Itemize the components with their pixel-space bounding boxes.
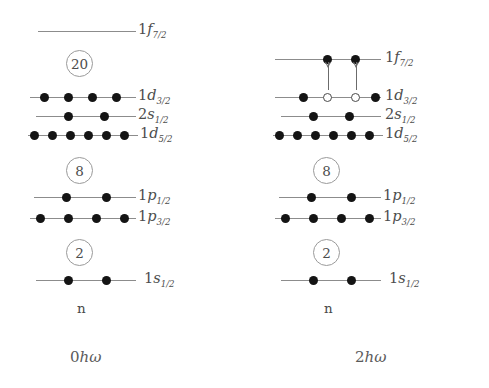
level-label-1p12: 1p1/2	[383, 187, 415, 206]
level-line	[281, 116, 381, 117]
particle-dot	[36, 214, 45, 223]
level-1f72-right: 1f7/2	[275, 50, 487, 70]
particle-dot	[309, 112, 318, 121]
level-1s12-left: 1s1/2	[36, 271, 241, 291]
particle-dot	[62, 193, 71, 202]
level-label-1f72: 1f7/2	[385, 49, 413, 68]
level-1f72-left: 1f7/2	[38, 22, 238, 42]
axis-label-n-left: n	[77, 300, 86, 316]
particle-dot	[365, 214, 374, 223]
particle-dot	[92, 214, 101, 223]
particle-dot	[64, 112, 73, 121]
level-line	[36, 116, 136, 117]
level-1p12-left: 1p1/2	[34, 188, 240, 208]
particle-dot	[100, 112, 109, 121]
level-label-1f72: 1f7/2	[138, 21, 166, 40]
particle-dot	[293, 131, 302, 140]
level-1p32-left: 1p3/2	[30, 209, 240, 229]
level-2s12-right: 2s1/2	[281, 107, 486, 127]
level-label-1p12: 1p1/2	[138, 187, 170, 206]
particle-dot	[347, 131, 356, 140]
caption-0hw: 0hω	[70, 348, 101, 366]
particle-dot	[48, 131, 57, 140]
particle-dot	[281, 214, 290, 223]
level-line	[38, 31, 136, 32]
particle-dot	[66, 131, 75, 140]
level-1s12-right: 1s1/2	[281, 271, 486, 291]
caption-2hw: 2hω	[355, 348, 386, 366]
level-label-2s12: 2s1/2	[385, 106, 416, 125]
level-label-1s12: 1s1/2	[389, 270, 420, 289]
magic-number-8-left: 8	[66, 157, 93, 184]
particle-dot	[102, 193, 111, 202]
level-label-1p32: 1p3/2	[138, 208, 170, 227]
level-label-2s12: 2s1/2	[138, 106, 169, 125]
particle-dot	[112, 93, 121, 102]
particle-dot	[120, 214, 129, 223]
magic-number-2-right: 2	[313, 239, 340, 266]
level-label-1d52: 1d5/2	[385, 125, 417, 144]
level-2s12-left: 2s1/2	[36, 107, 241, 127]
level-line	[36, 280, 136, 281]
level-1d32-right: 1d3/2	[275, 88, 487, 108]
particle-dot	[337, 214, 346, 223]
level-label-1p32: 1p3/2	[383, 208, 415, 227]
excitation-arrow-1	[328, 62, 329, 90]
magic-number-2-left: 2	[66, 239, 93, 266]
level-line	[279, 197, 381, 198]
particle-dot	[64, 214, 73, 223]
particle-dot	[40, 93, 49, 102]
particle-dot	[30, 131, 39, 140]
particle-dot	[365, 131, 374, 140]
particle-dot	[64, 276, 73, 285]
particle-dot	[102, 131, 111, 140]
particle-dot	[88, 93, 97, 102]
level-label-1d52: 1d5/2	[140, 125, 172, 144]
shell-diagram-panel-right: 1f7/2 1d3/2 2s1/2 1d5/2 8 1p1/2	[245, 0, 489, 388]
particle-dot	[347, 193, 356, 202]
particle-dot	[275, 131, 284, 140]
level-line	[34, 197, 136, 198]
particle-dot	[64, 93, 73, 102]
shell-diagram-panel-left: 1f7/2 20 1d3/2 2s1/2 1d5/2 8 1p1/2	[0, 0, 244, 388]
particle-dot	[371, 93, 380, 102]
particle-dot	[345, 112, 354, 121]
particle-dot	[84, 131, 93, 140]
level-1p12-right: 1p1/2	[279, 188, 485, 208]
particle-dot	[329, 131, 338, 140]
hole-circle	[351, 93, 360, 102]
particle-dot	[307, 193, 316, 202]
level-1d52-left: 1d5/2	[28, 126, 240, 146]
axis-label-n-right: n	[324, 300, 333, 316]
level-label-1s12: 1s1/2	[144, 270, 175, 289]
magic-number-20-left: 20	[66, 50, 93, 77]
particle-dot	[309, 276, 318, 285]
magic-number-8-right: 8	[313, 157, 340, 184]
level-1d32-left: 1d3/2	[30, 88, 240, 108]
level-label-1d32: 1d3/2	[138, 87, 170, 106]
particle-dot	[309, 214, 318, 223]
level-1d52-right: 1d5/2	[273, 126, 485, 146]
excitation-arrow-2	[356, 62, 357, 90]
particle-dot	[102, 276, 111, 285]
level-label-1d32: 1d3/2	[385, 87, 417, 106]
level-line	[281, 280, 381, 281]
particle-dot	[347, 276, 356, 285]
particle-dot	[311, 131, 320, 140]
hole-circle	[323, 93, 332, 102]
particle-dot	[120, 131, 129, 140]
particle-dot	[299, 93, 308, 102]
level-1p32-right: 1p3/2	[275, 209, 485, 229]
